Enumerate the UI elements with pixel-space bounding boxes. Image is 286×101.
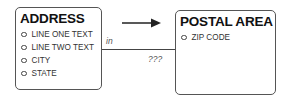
attribute-label: LINE ONE TEXT [32, 28, 93, 41]
direction-arrow-icon [120, 17, 164, 29]
relationship-line [102, 49, 175, 50]
optional-circle-icon [21, 32, 27, 38]
attribute-list: ZIP CODE [181, 31, 230, 44]
attribute-label: STATE [32, 67, 57, 80]
attribute-item: LINE ONE TEXT [21, 28, 94, 41]
attribute-label: CITY [32, 54, 51, 67]
relationship-label-in: in [106, 36, 113, 46]
entity-title: ADDRESS [20, 12, 85, 26]
relationship-label-unknown: ??? [148, 54, 162, 64]
entity-postal-area: POSTAL AREA ZIP CODE [175, 10, 276, 95]
attribute-list: LINE ONE TEXT LINE TWO TEXT CITY STATE [21, 28, 94, 80]
entity-title: POSTAL AREA [180, 15, 273, 29]
attribute-item: CITY [21, 54, 94, 67]
optional-circle-icon [21, 71, 27, 77]
optional-circle-icon [21, 58, 27, 64]
attribute-label: ZIP CODE [192, 31, 231, 44]
attribute-label: LINE TWO TEXT [32, 41, 94, 54]
attribute-item: LINE TWO TEXT [21, 41, 94, 54]
optional-circle-icon [181, 35, 187, 41]
attribute-item: ZIP CODE [181, 31, 230, 44]
optional-circle-icon [21, 45, 27, 51]
entity-address: ADDRESS LINE ONE TEXT LINE TWO TEXT CITY… [15, 7, 102, 90]
attribute-item: STATE [21, 67, 94, 80]
